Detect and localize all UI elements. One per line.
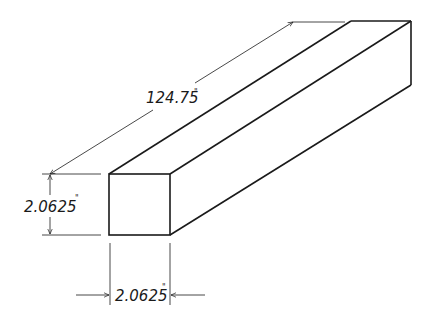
width-label: 2.0625: [115, 287, 168, 305]
length-label: 124.75: [146, 89, 199, 107]
front-face: [109, 174, 170, 235]
top-right-edge: [170, 21, 411, 174]
extension-lines: [42, 22, 345, 305]
height-unit: ": [75, 194, 79, 203]
height-label: 2.0625: [24, 198, 77, 216]
width-unit: ": [162, 283, 166, 292]
length-unit: ": [194, 88, 198, 97]
dimensioned-bar-drawing: 124.75 " 2.0625 " 2.0625 ": [0, 0, 431, 327]
bar-body: [109, 21, 411, 235]
bottom-right-edge: [170, 85, 411, 235]
